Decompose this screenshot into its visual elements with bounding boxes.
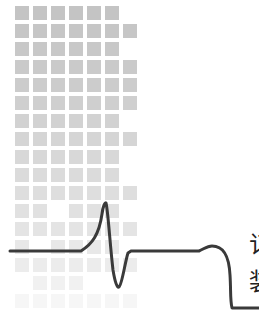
grid-square <box>105 6 119 20</box>
grid-square <box>123 222 137 236</box>
grid-square <box>69 204 83 218</box>
grid-square <box>87 78 101 92</box>
grid-square <box>123 24 137 38</box>
grid-square <box>51 42 65 56</box>
grid-square <box>87 168 101 182</box>
grid-square <box>51 6 65 20</box>
grid-square <box>87 186 101 200</box>
grid-square <box>87 114 101 128</box>
grid-square <box>15 78 29 92</box>
grid-square <box>87 258 101 272</box>
ecg-waveform-icon <box>10 203 259 308</box>
grid-square <box>15 96 29 110</box>
grid-square <box>87 204 101 218</box>
grid-square <box>33 96 47 110</box>
grid-square <box>87 96 101 110</box>
grid-square <box>123 96 137 110</box>
grid-square <box>33 6 47 20</box>
grid-square <box>51 96 65 110</box>
grid-square <box>15 60 29 74</box>
grid-square <box>105 132 119 146</box>
grid-square <box>69 24 83 38</box>
grid-square <box>15 42 29 56</box>
grid-square <box>33 294 47 308</box>
grid-square <box>69 294 83 308</box>
grid-square <box>33 204 47 218</box>
grid-square <box>33 150 47 164</box>
grid-square <box>105 42 119 56</box>
grid-square <box>87 60 101 74</box>
grid-square <box>33 42 47 56</box>
grid-square <box>15 6 29 20</box>
grid-square <box>69 96 83 110</box>
grid-square <box>87 150 101 164</box>
grid-square <box>15 132 29 146</box>
grid-square <box>69 132 83 146</box>
grid-square <box>69 276 83 290</box>
grid-square <box>69 6 83 20</box>
grid-square <box>87 42 101 56</box>
grid-square <box>33 276 47 290</box>
grid-square <box>69 168 83 182</box>
grid-square <box>51 132 65 146</box>
grid-square <box>105 168 119 182</box>
grid-square <box>105 294 119 308</box>
grid-square <box>15 294 29 308</box>
grid-square <box>15 168 29 182</box>
square-grid <box>15 6 137 308</box>
grid-square <box>51 294 65 308</box>
clipped-text-line-2: 装 <box>249 270 259 294</box>
grid-square <box>51 186 65 200</box>
grid-square <box>33 222 47 236</box>
grid-square <box>15 204 29 218</box>
grid-square <box>69 60 83 74</box>
grid-square <box>51 24 65 38</box>
grid-square <box>51 276 65 290</box>
grid-square <box>33 132 47 146</box>
graphic-container: 订 装 <box>0 0 259 319</box>
grid-square <box>87 24 101 38</box>
grid-square <box>15 258 29 272</box>
grid-square <box>123 186 137 200</box>
grid-square <box>87 240 101 254</box>
grid-square <box>51 222 65 236</box>
grid-square <box>15 150 29 164</box>
grid-square <box>15 186 29 200</box>
grid-square <box>69 186 83 200</box>
grid-square <box>105 24 119 38</box>
grid-square <box>69 258 83 272</box>
grid-square <box>105 150 119 164</box>
grid-square <box>33 168 47 182</box>
grid-square <box>69 78 83 92</box>
grid-square <box>15 222 29 236</box>
grid-square <box>105 78 119 92</box>
grid-square <box>123 294 137 308</box>
grid-square <box>87 294 101 308</box>
grid-square <box>33 186 47 200</box>
grid-square <box>33 78 47 92</box>
grid-square <box>123 78 137 92</box>
clipped-text-line-1: 订 <box>249 233 259 257</box>
grid-square <box>51 168 65 182</box>
grid-square <box>105 186 119 200</box>
grid-square <box>69 222 83 236</box>
grid-square <box>33 258 47 272</box>
grid-square <box>33 114 47 128</box>
grid-square <box>51 60 65 74</box>
grid-square <box>51 78 65 92</box>
grid-square <box>105 60 119 74</box>
grid-square <box>51 150 65 164</box>
grid-square <box>105 114 119 128</box>
grid-square <box>105 96 119 110</box>
grid-square <box>51 114 65 128</box>
logo-graphic <box>0 0 259 319</box>
grid-square <box>87 6 101 20</box>
grid-square <box>15 114 29 128</box>
grid-square <box>51 258 65 272</box>
grid-square <box>123 132 137 146</box>
grid-square <box>33 24 47 38</box>
grid-square <box>15 24 29 38</box>
grid-square <box>69 114 83 128</box>
grid-square <box>87 132 101 146</box>
grid-square <box>123 60 137 74</box>
